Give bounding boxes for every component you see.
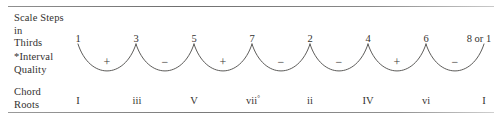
chord-root-symbol: iii (133, 95, 142, 106)
chord-root-roman: vi (422, 95, 430, 106)
chord-root-symbol: IV (362, 95, 373, 106)
interval-quality-sign: − (162, 55, 169, 70)
top-divider-rule (8, 6, 494, 7)
scale-step-number: 6 (423, 33, 428, 44)
chord-root-roman: V (190, 95, 198, 106)
chord-root-symbol: V (190, 95, 198, 106)
interval-slur-arcs (0, 0, 502, 126)
interval-quality-sign: − (336, 55, 343, 70)
chord-root-roman: ii (307, 95, 313, 106)
chord-root-diminished-icon: ° (257, 94, 260, 102)
interval-quality-sign: − (278, 55, 285, 70)
interval-quality-sign: + (104, 55, 111, 70)
row-label-chord-roots: Chord Roots (14, 86, 41, 111)
scale-step-number: 8 or 1 (467, 33, 492, 44)
scale-step-number: 1 (75, 33, 80, 44)
bottom-divider-rule (8, 112, 494, 113)
scale-step-number: 4 (365, 33, 370, 44)
scale-step-number: 5 (191, 33, 196, 44)
chord-root-symbol: ii (307, 95, 313, 106)
scale-step-number: 7 (249, 33, 254, 44)
slur-arc-svg (0, 0, 502, 126)
chord-root-symbol: vii° (246, 95, 260, 106)
interval-quality-sign: − (452, 55, 459, 70)
interval-quality-sign: + (220, 55, 227, 70)
chord-root-symbol: vi (422, 95, 430, 106)
scale-steps-in-thirds-figure: Scale Steps in Thirds *Interval Quality … (0, 0, 502, 126)
chord-root-roman: iii (133, 95, 142, 106)
scale-step-number: 3 (133, 33, 138, 44)
chord-root-roman: I (482, 95, 486, 106)
chord-root-symbol: I (76, 95, 80, 106)
row-label-scale-steps: Scale Steps in Thirds (14, 12, 64, 50)
chord-root-roman: IV (362, 95, 373, 106)
chord-root-roman: vii (246, 95, 257, 106)
interval-quality-sign: + (394, 55, 401, 70)
scale-step-number: 2 (307, 33, 312, 44)
row-label-interval-quality: *Interval Quality (14, 51, 53, 76)
chord-root-roman: I (76, 95, 80, 106)
chord-root-symbol: I (482, 95, 486, 106)
